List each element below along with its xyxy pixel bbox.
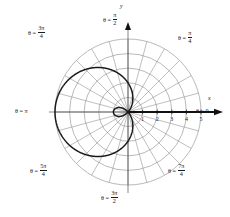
angle-label-fraction: 3π2 [111, 190, 118, 204]
grid-spoke-105deg [109, 41, 128, 112]
grid-spoke-300deg [128, 112, 165, 175]
angle-label-theta-7pi-4: θ = 7π4 [168, 163, 185, 177]
angle-label-prefix: θ = [28, 29, 38, 36]
angle-label-theta-0: θ = 0 [196, 108, 209, 114]
angle-label-prefix: θ = [30, 167, 40, 174]
angle-label-theta-pi: θ = π [15, 108, 28, 114]
angle-label-prefix: θ = [15, 107, 25, 114]
grid-spoke-330deg [128, 112, 191, 149]
angle-label-value: π [25, 107, 28, 114]
grid-spoke-45deg [128, 60, 180, 112]
grid-spoke-150deg [65, 76, 128, 113]
polar-plot-figure: 12345 y x θ = 0 θ = π4 θ = π2 θ = 3π4 θ … [0, 0, 230, 217]
y-axis-arrowhead [125, 22, 131, 30]
angle-label-theta-5pi-4: θ = 5π4 [30, 163, 47, 177]
fraction-denominator: 2 [113, 20, 117, 27]
fraction-denominator: 2 [111, 198, 118, 205]
grid-spoke-345deg [128, 112, 199, 131]
grid-spoke-210deg [65, 112, 128, 149]
fraction-denominator: 4 [40, 171, 47, 178]
y-axis-label: y [120, 3, 123, 9]
angle-label-prefix: θ = [168, 167, 178, 174]
x-axis-arrowhead [214, 109, 223, 115]
x-axis-tick-label-5: 5 [200, 116, 203, 122]
grid-spoke-240deg [92, 112, 129, 175]
angle-label-prefix: θ = [101, 194, 111, 201]
angle-label-theta-pi-2: θ = π2 [103, 12, 117, 26]
angle-label-theta-pi-4: θ = π4 [178, 30, 192, 44]
grid-spoke-165deg [57, 93, 128, 112]
angle-label-fraction: π2 [113, 12, 117, 26]
grid-spoke-30deg [128, 76, 191, 113]
grid-spoke-15deg [128, 93, 199, 112]
angle-label-theta-3pi-4: θ = 3π4 [28, 25, 45, 39]
fraction-denominator: 4 [38, 33, 45, 40]
x-axis-tick-label-1: 1 [141, 116, 144, 122]
angle-label-fraction: 7π4 [178, 163, 185, 177]
angle-label-value: 0 [206, 107, 209, 114]
grid-spoke-75deg [128, 41, 147, 112]
grid-spoke-195deg [57, 112, 128, 131]
angle-label-prefix: θ = [196, 107, 206, 114]
x-axis-tick-label-4: 4 [185, 116, 188, 122]
x-axis-tick-label-2: 2 [156, 116, 159, 122]
angle-label-fraction: π4 [188, 30, 192, 44]
angle-label-fraction: 3π4 [38, 25, 45, 39]
grid-spoke-120deg [92, 49, 129, 112]
x-axis-label: x [208, 95, 211, 101]
grid-spoke-60deg [128, 49, 165, 112]
fraction-denominator: 4 [178, 171, 185, 178]
grid-spoke-285deg [128, 112, 147, 183]
angle-label-prefix: θ = [178, 34, 188, 41]
angle-label-theta-3pi-2: θ = 3π2 [101, 190, 118, 204]
angle-label-fraction: 5π4 [40, 163, 47, 177]
fraction-denominator: 4 [188, 38, 192, 45]
x-axis-tick-label-3: 3 [170, 116, 173, 122]
grid-spoke-255deg [109, 112, 128, 183]
angle-label-prefix: θ = [103, 16, 113, 23]
